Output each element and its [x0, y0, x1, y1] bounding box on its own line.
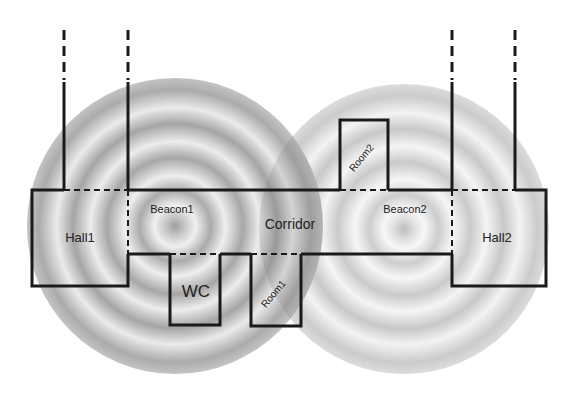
floorplan-diagram: Beacon1 Beacon2 Hall1 Corridor Hall2 WC …: [0, 0, 574, 395]
beacon2-label: Beacon2: [383, 203, 426, 215]
corridor-label: Corridor: [265, 216, 316, 232]
hall1-label: Hall1: [65, 230, 95, 245]
wc-label: WC: [182, 282, 210, 301]
beacon1-label: Beacon1: [150, 203, 193, 215]
floorplan-svg: Beacon1 Beacon2 Hall1 Corridor Hall2 WC …: [0, 0, 574, 395]
hall2-label: Hall2: [482, 230, 512, 245]
